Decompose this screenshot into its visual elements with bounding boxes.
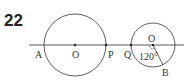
point-q — [130, 44, 132, 46]
label-p: P — [108, 49, 114, 60]
label-b: B — [162, 67, 169, 78]
point-o — [74, 44, 76, 46]
geometry-diagram: A O P Q O 120° B — [0, 0, 188, 83]
label-angle: 120° — [139, 51, 158, 62]
label-o-prime: O — [148, 33, 155, 44]
label-o: O — [72, 49, 79, 60]
point-p — [105, 44, 107, 46]
point-o-prime — [152, 44, 154, 46]
label-a: A — [35, 49, 43, 60]
label-q: Q — [124, 49, 132, 60]
